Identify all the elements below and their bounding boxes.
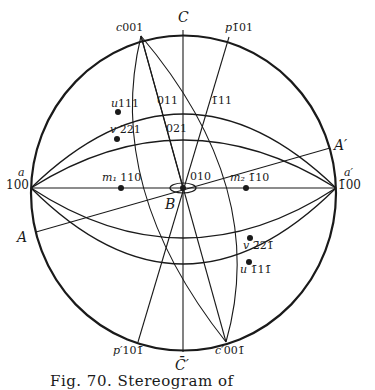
label-pole-p-prime-101: p′101̄ — [113, 345, 144, 356]
label-pole-111-bar: 1̄11 — [211, 95, 232, 106]
label-pole-c-prime-001: c′001̄ — [215, 345, 245, 356]
label-pole-m1: m₁ 110 — [102, 172, 141, 183]
label-pole-c001: c001 — [116, 22, 143, 33]
zone-arc-c-m1-cprime — [132, 36, 226, 342]
label-pole-m2: m₂ 1̄10 — [230, 172, 269, 183]
figure-caption: Fig. 70. Stereogram of — [50, 372, 234, 390]
label-pole-010: 010 — [190, 171, 211, 182]
pole-dot-m1 — [118, 185, 124, 191]
pole-dot-m2 — [243, 185, 249, 191]
label-pole-v-221: v 2̄21̄ — [243, 240, 274, 251]
label-axis-b: B — [165, 197, 175, 211]
label-pole-a-letter: a — [18, 167, 25, 178]
label-pole-u-111: u 1̄11̄ — [240, 264, 272, 275]
label-axis-a-prime: A′ — [334, 138, 347, 152]
stereogram-figure: C C̄′ A′ A B c001 p1̄01 a 100 a′ 1̄00 u1… — [0, 0, 375, 390]
label-pole-a-prime-letter: a′ — [344, 167, 353, 178]
label-pole-u111: u111 — [111, 98, 139, 109]
label-pole-a-index: 100 — [6, 180, 29, 191]
pole-dot-010 — [180, 185, 186, 191]
zone-c-010 — [141, 36, 183, 188]
label-pole-v221: v 221 — [110, 124, 141, 135]
label-pole-021: 021 — [166, 123, 187, 134]
label-pole-p-101: p1̄01 — [225, 22, 253, 33]
label-pole-a-prime-index: 1̄00 — [338, 180, 361, 191]
label-axis-a: A — [17, 230, 27, 244]
stereogram-drawing — [0, 0, 375, 390]
label-axis-c: C — [178, 10, 189, 24]
zone-arc-c-m2-cprime — [141, 36, 237, 342]
label-pole-011: 011 — [157, 95, 178, 106]
label-axis-c-prime: C̄′ — [175, 358, 189, 372]
pole-dot-v221 — [114, 136, 120, 142]
